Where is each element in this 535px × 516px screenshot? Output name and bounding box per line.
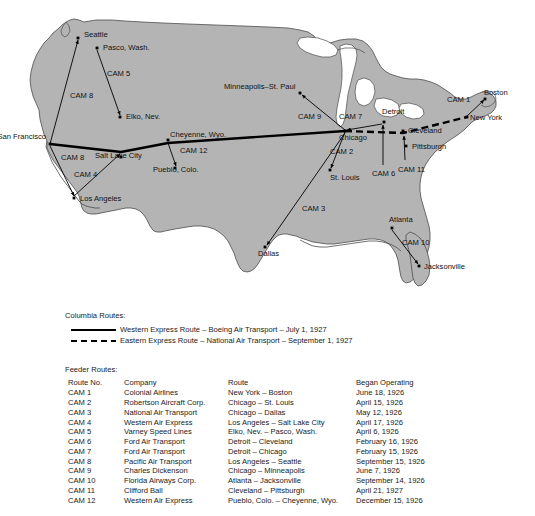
cell-no: CAM 12 bbox=[65, 497, 124, 507]
city-marker bbox=[418, 265, 421, 268]
city-label: Cheyenne, Wyo. bbox=[170, 130, 226, 139]
city-marker bbox=[73, 197, 76, 200]
city-marker bbox=[299, 92, 302, 95]
city-label: Los Angeles bbox=[80, 194, 122, 203]
city-label: Elko, Nev. bbox=[126, 112, 160, 121]
city-marker bbox=[391, 227, 394, 230]
cam-route-label: CAM 1 bbox=[447, 95, 470, 104]
city-marker bbox=[264, 246, 267, 249]
feeder-routes-legend: Feeder Routes: Route No. Company Route B… bbox=[65, 366, 466, 507]
cam-route-label: CAM 11 bbox=[398, 165, 425, 174]
city-label: Boston bbox=[484, 88, 508, 97]
city-label: Jacksonville bbox=[424, 262, 465, 271]
columbia-routes-legend: Columbia Routes: Western Express Route –… bbox=[65, 312, 353, 347]
cam-route-label: CAM 4 bbox=[74, 170, 97, 179]
city-marker bbox=[405, 145, 408, 148]
city-marker bbox=[49, 143, 52, 146]
city-label: Pasco, Wash. bbox=[103, 43, 150, 52]
city-label: Dallas bbox=[258, 249, 279, 258]
cam-route-label: CAM 10 bbox=[402, 238, 429, 247]
cam-route-label: CAM 8 bbox=[70, 91, 93, 100]
solid-line-swatch-icon bbox=[65, 325, 120, 335]
legend-label-western-express: Western Express Route – Boeing Air Trans… bbox=[120, 326, 327, 334]
city-label: Seattle bbox=[84, 30, 108, 39]
city-marker bbox=[96, 47, 99, 50]
cam-route-label: CAM 5 bbox=[107, 69, 130, 78]
city-marker bbox=[329, 169, 332, 172]
cam-route-label: CAM 12 bbox=[180, 146, 207, 155]
city-marker bbox=[383, 121, 386, 124]
city-label: New York bbox=[470, 113, 502, 122]
cam-route-label: CAM 3 bbox=[302, 204, 325, 213]
city-label: Atlanta bbox=[389, 215, 413, 224]
cell-route: Pueblo, Colo. – Cheyenne, Wyo. bbox=[228, 497, 356, 507]
cam-route-label: CAM 9 bbox=[298, 112, 321, 121]
city-label: Chicago bbox=[339, 133, 367, 142]
city-label: Minneapolis–St. Paul bbox=[224, 82, 296, 91]
feeder-legend-title: Feeder Routes: bbox=[65, 366, 466, 374]
city-label: Pueblo, Colo. bbox=[153, 165, 199, 174]
city-label: Detroit bbox=[382, 107, 405, 116]
dashed-line-swatch-icon bbox=[65, 336, 120, 346]
cam-route-label: CAM 6 bbox=[372, 169, 395, 178]
city-marker bbox=[466, 116, 469, 119]
cam-route-label: CAM 7 bbox=[339, 112, 362, 121]
legend-row-western-express: Western Express Route – Boeing Air Trans… bbox=[65, 325, 353, 336]
columbia-legend-title: Columbia Routes: bbox=[65, 312, 353, 320]
cam-route-label: CAM 8 bbox=[61, 153, 84, 162]
city-label: San Francisco bbox=[0, 132, 46, 141]
legend-label-eastern-express: Eastern Express Route – National Air Tra… bbox=[120, 337, 353, 345]
cell-began: December 15, 1926 bbox=[356, 497, 466, 507]
air-mail-routes-map: SeattlePasco, Wash.Elko, Nev.San Francis… bbox=[0, 0, 535, 305]
city-label: St. Louis bbox=[330, 173, 360, 182]
city-marker bbox=[119, 116, 122, 119]
cell-company: Western Air Express bbox=[124, 497, 228, 507]
city-marker bbox=[77, 37, 80, 40]
city-marker bbox=[402, 130, 405, 133]
legend-row-eastern-express: Eastern Express Route – National Air Tra… bbox=[65, 336, 353, 347]
city-marker bbox=[344, 130, 347, 133]
city-marker bbox=[167, 139, 170, 142]
feeder-routes-table: Route No. Company Route Began Operating … bbox=[65, 379, 466, 507]
cam-route-label: CAM 2 bbox=[330, 147, 353, 156]
city-marker bbox=[484, 98, 487, 101]
city-label: Salt Lake City bbox=[95, 151, 142, 160]
city-label: Cleveland bbox=[408, 126, 442, 135]
table-row: CAM 12Western Air ExpressPueblo, Colo. –… bbox=[65, 497, 466, 507]
city-label: Pittsburgh bbox=[412, 142, 446, 151]
